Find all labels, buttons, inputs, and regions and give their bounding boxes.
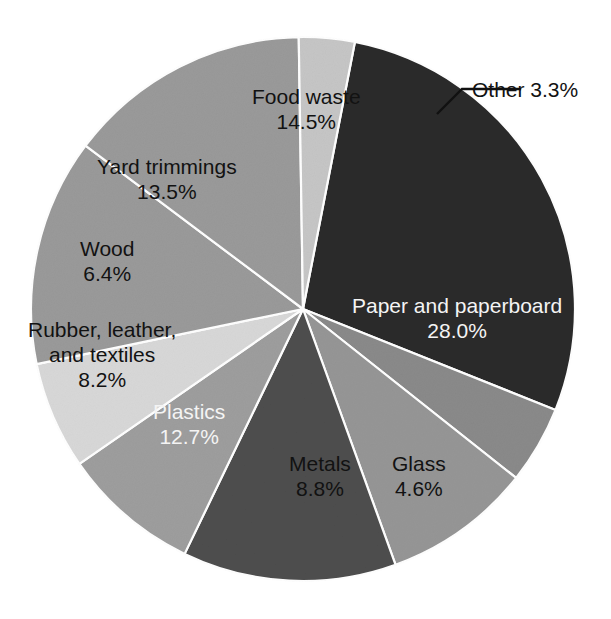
pie-chart-svg (0, 0, 611, 619)
pie-slices-group (31, 37, 575, 581)
pie-chart-figure: Food waste 14.5% Yard trimmings 13.5% Wo… (0, 0, 611, 619)
